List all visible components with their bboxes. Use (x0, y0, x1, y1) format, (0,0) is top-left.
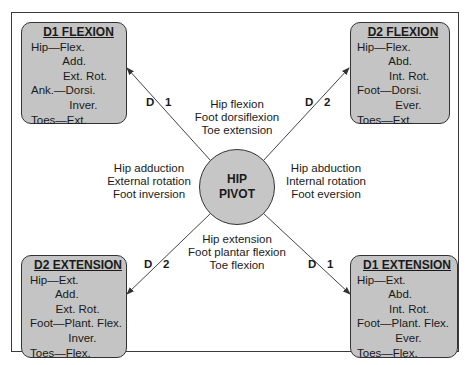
box-line: Ever. (357, 98, 449, 113)
box-line: Toes—Ext. (357, 113, 449, 128)
box-line: Ever. (357, 331, 457, 346)
motion-text: Hip adduction (104, 162, 194, 175)
diagonal-label-bl-n: 2 (163, 258, 169, 270)
diagonal-label-tr-n: 2 (324, 96, 330, 108)
hip-pivot-circle: HIP PIVOT (199, 149, 275, 225)
motion-text: Hip abduction (281, 162, 371, 175)
box-line: Inver. (31, 98, 126, 113)
d2-flexion-box: D2 FLEXION Hip—Flex. Abd. Int. Rot. Foot… (350, 22, 450, 124)
d1-extension-box: D1 EXTENSION Hip—Ext. Abd. Int. Rot. Foo… (350, 255, 458, 358)
bottom-motions: Hip extension Foot plantar flexion Toe f… (179, 233, 295, 272)
motion-text: Foot inversion (104, 188, 194, 201)
box-line: Hip—Flex. (357, 40, 449, 55)
d1-flexion-box: D1 FLEXION Hip—Flex. Add. Ext. Rot. Ank.… (21, 22, 127, 124)
box-title: D2 EXTENSION (30, 258, 126, 273)
box-title: D1 FLEXION (31, 25, 126, 40)
right-motions: Hip abduction Internal rotation Foot eve… (281, 162, 371, 201)
motion-text: Hip extension (179, 233, 295, 246)
diagonal-label-bl-d: D (144, 258, 152, 270)
box-line: Foot—Dorsi. (357, 83, 449, 98)
box-line: Ext. Rot. (31, 69, 126, 84)
box-line: Ank.—Dorsi. (31, 83, 126, 98)
box-line: Foot—Plant. Flex. (30, 316, 126, 331)
box-line: Foot—Plant. Flex. (357, 316, 457, 331)
pivot-label-1: HIP (227, 172, 247, 187)
diagonal-label-br-d: D (308, 258, 316, 270)
diagonal-label-br-n: 1 (327, 258, 333, 270)
motion-text: Toe flexion (179, 259, 295, 272)
left-motions: Hip adduction External rotation Foot inv… (104, 162, 194, 201)
motion-text: External rotation (104, 175, 194, 188)
box-line: Abd. (357, 287, 457, 302)
box-line: Ext. Rot. (30, 302, 126, 317)
box-line: Toes—Ext. (31, 113, 126, 128)
diagonal-label-tl-n: 1 (165, 96, 171, 108)
diagonal-label-tr-d: D (305, 96, 313, 108)
motion-text: Foot eversion (281, 188, 371, 201)
box-line: Abd. (357, 54, 449, 69)
box-title: D2 FLEXION (357, 25, 449, 40)
motion-text: Foot plantar flexion (179, 246, 295, 259)
box-line: Int. Rot. (357, 302, 457, 317)
box-line: Int. Rot. (357, 69, 449, 84)
motion-text: Hip flexion (189, 98, 285, 111)
box-line: Inver. (30, 331, 126, 346)
box-line: Hip—Ext. (357, 273, 457, 288)
box-line: Toes—Flex. (357, 346, 457, 361)
motion-text: Toe extension (189, 124, 285, 137)
motion-text: Internal rotation (281, 175, 371, 188)
pivot-label-2: PIVOT (219, 187, 255, 202)
top-motions: Hip flexion Foot dorsiflexion Toe extens… (189, 98, 285, 137)
diagonal-label-tl-d: D (146, 96, 154, 108)
box-title: D1 EXTENSION (357, 258, 457, 273)
box-line: Hip—Ext. (30, 273, 126, 288)
box-line: Toes—Flex. (30, 346, 126, 361)
d2-extension-box: D2 EXTENSION Hip—Ext. Add. Ext. Rot. Foo… (21, 255, 127, 358)
box-line: Hip—Flex. (31, 40, 126, 55)
box-line: Add. (31, 54, 126, 69)
motion-text: Foot dorsiflexion (189, 111, 285, 124)
box-line: Add. (30, 287, 126, 302)
